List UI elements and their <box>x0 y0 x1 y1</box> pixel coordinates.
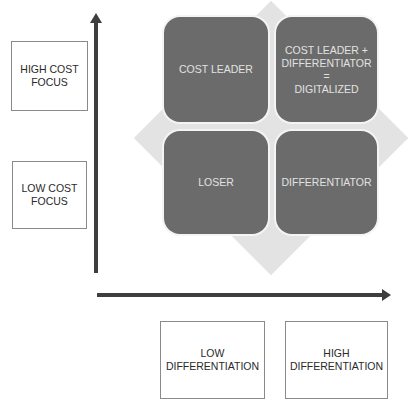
y-label-low-line1: LOW COST <box>21 182 77 195</box>
quadrant-digitalized-line4: DIGITALIZED <box>281 83 371 96</box>
quadrant-differentiator-label: DIFFERENTIATOR <box>281 176 371 189</box>
y-axis-arrow-up-icon <box>90 13 102 23</box>
quadrant-cost-leader-label: COST LEADER <box>179 63 253 76</box>
quadrant-differentiator: DIFFERENTIATOR <box>276 131 377 234</box>
quadrant-digitalized-line1: COST LEADER + <box>281 44 371 57</box>
x-label-high-line2: DIFFERENTIATION <box>290 360 383 373</box>
quadrant-digitalized-line3: = <box>281 70 371 83</box>
y-label-high-line1: HIGH COST <box>20 63 78 76</box>
x-label-low-differentiation: LOW DIFFERENTIATION <box>160 321 265 399</box>
y-label-low-cost-focus: LOW COST FOCUS <box>12 161 87 229</box>
x-label-low-line2: DIFFERENTIATION <box>166 360 259 373</box>
x-label-low-line1: LOW <box>166 347 259 360</box>
y-axis-line <box>94 22 98 273</box>
quadrant-loser: LOSER <box>164 131 268 234</box>
x-label-high-line1: HIGH <box>290 347 383 360</box>
quadrant-cost-leader: COST LEADER <box>164 17 268 122</box>
y-label-low-line2: FOCUS <box>21 195 77 208</box>
quadrant-digitalized-line2: DIFFERENTIATOR <box>281 57 371 70</box>
y-label-high-cost-focus: HIGH COST FOCUS <box>11 41 88 111</box>
y-label-high-line2: FOCUS <box>20 76 78 89</box>
x-label-high-differentiation: HIGH DIFFERENTIATION <box>285 321 388 399</box>
x-axis-line <box>97 293 383 297</box>
quadrant-digitalized: COST LEADER + DIFFERENTIATOR = DIGITALIZ… <box>276 17 377 122</box>
x-axis-arrow-right-icon <box>382 289 391 301</box>
quadrant-loser-label: LOSER <box>198 176 234 189</box>
